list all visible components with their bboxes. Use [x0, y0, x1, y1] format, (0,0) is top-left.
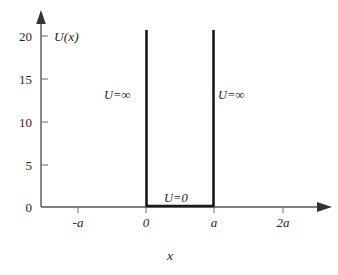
x-axis-ticks [78, 207, 283, 213]
y-axis-arrowhead [36, 10, 46, 24]
plot-canvas [0, 0, 338, 275]
potential-curve [147, 30, 214, 206]
y-axis-ticks [41, 36, 48, 165]
y-tick-label-0: 0 [6, 201, 32, 214]
y-tick-label-20: 20 [6, 30, 32, 43]
well-floor-label: U=0 [164, 192, 188, 205]
x-tick-label-0: 0 [126, 216, 166, 229]
x-tick-label-2a: 2a [263, 216, 303, 229]
x-tick-label-minus-a: -a [58, 216, 98, 229]
potential-well-figure: 20 15 10 5 0 U(x) -a 0 a 2a x U=∞ U=∞ U=… [0, 0, 338, 275]
right-wall-label: U=∞ [218, 89, 244, 102]
x-axis-name: x [167, 249, 173, 263]
left-wall-label: U=∞ [104, 89, 130, 102]
y-tick-label-5: 5 [6, 159, 32, 172]
x-axis-arrowhead [317, 202, 332, 212]
y-tick-label-15: 15 [6, 73, 32, 86]
y-tick-label-10: 10 [6, 116, 32, 129]
x-tick-label-a: a [194, 216, 234, 229]
y-axis-name: U(x) [54, 30, 79, 44]
